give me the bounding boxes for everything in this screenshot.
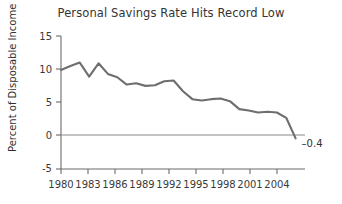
x-tick-label-2001: 2001 — [237, 179, 262, 190]
x-tick-label-1983: 1983 — [75, 179, 100, 190]
x-tick-label-1992: 1992 — [156, 179, 181, 190]
x-tick-label-1995: 1995 — [183, 179, 208, 190]
endpoint-value-label: –0.4 — [302, 138, 323, 149]
y-tick-label-15: 15 — [39, 31, 52, 42]
x-tick-label-1998: 1998 — [210, 179, 235, 190]
x-tick-label-1989: 1989 — [129, 179, 154, 190]
x-tick-label-2004: 2004 — [264, 179, 289, 190]
y-tick-label-5: 5 — [46, 97, 52, 108]
y-tick-label-minus5: -5 — [42, 163, 52, 174]
x-tick-label-1986: 1986 — [102, 179, 127, 190]
savings-rate-line — [61, 63, 296, 139]
y-axis-label: Percent of Disposable Income — [7, 4, 18, 152]
y-tick-label-10: 10 — [39, 64, 52, 75]
line-chart-plot: Percent of Disposable Income 15 10 5 0 -… — [0, 0, 342, 204]
x-tick-label-1980: 1980 — [48, 179, 73, 190]
y-tick-label-0: 0 — [46, 130, 52, 141]
chart-figure: Personal Savings Rate Hits Record Low Pe… — [0, 0, 342, 204]
